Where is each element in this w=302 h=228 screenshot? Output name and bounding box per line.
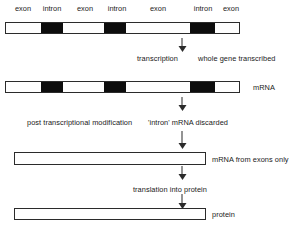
step-label-transcription: transcription: [137, 54, 178, 63]
intron-block-3: [190, 23, 215, 33]
arrow-translation: [178, 166, 187, 180]
gene-bar: [5, 22, 240, 34]
gene-segment-label-intron-1: intron: [43, 4, 62, 13]
step-note-whole-gene-transcribed: whole gene transcribed: [198, 54, 276, 63]
product-label-mrna: mRNA: [253, 83, 275, 92]
gene-segment-label-exon-2: exon: [77, 4, 93, 13]
arrow-to-exon-mrna: [178, 131, 187, 149]
intron-block-2: [104, 23, 126, 33]
step-note-intron-mrna-discarded: 'intron' mRNA discarded: [148, 118, 228, 127]
step-label-translation-into-protein: translation into protein: [133, 185, 207, 194]
mrna-intron-block-1: [41, 82, 63, 92]
mrna-bar: [5, 81, 240, 93]
arrow-to-protein: [178, 194, 187, 209]
intron-block-1: [41, 23, 63, 33]
gene-expression-diagram: exon intron exon intron exon intron exon…: [0, 0, 302, 228]
gene-segment-label-exon-4: exon: [223, 4, 239, 13]
gene-segment-label-exon-1: exon: [15, 4, 31, 13]
product-label-protein: protein: [212, 210, 235, 219]
arrow-post-transcriptional-modification: [178, 97, 187, 111]
gene-segment-label-intron-2: intron: [108, 4, 127, 13]
gene-segment-label-exon-3: exon: [150, 4, 166, 13]
protein-bar: [14, 208, 206, 220]
step-label-post-transcriptional-modification: post transcriptional modification: [27, 118, 132, 127]
mrna-intron-block-2: [104, 82, 126, 92]
mrna-intron-block-3: [190, 82, 215, 92]
gene-segment-label-intron-3: intron: [194, 4, 213, 13]
product-label-mrna-from-exons-only: mRNA from exons only: [212, 155, 289, 164]
exon-mrna-bar: [14, 152, 206, 165]
arrow-transcription: [178, 38, 187, 52]
